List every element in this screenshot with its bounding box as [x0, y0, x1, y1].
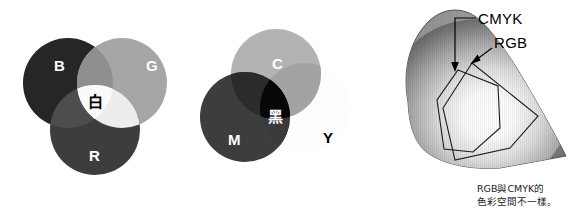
additive-color-panel: B G R 白	[0, 0, 195, 223]
magenta-circle-label: M	[228, 132, 241, 147]
cyan-yellow-overlap	[260, 63, 350, 153]
gamut-caption-line-2: 色彩空間不一樣。	[477, 196, 557, 208]
cmyk-callout-label: CMYK	[478, 10, 523, 27]
red-circle-label: R	[89, 148, 100, 163]
cmyk-leader-line	[451, 18, 476, 72]
yellow-circle	[260, 63, 350, 153]
rgb-leader-line	[470, 48, 492, 65]
white-center-label: 白	[88, 95, 103, 110]
blue-circle-label: B	[54, 58, 65, 73]
rgb-callout-label: RGB	[494, 34, 527, 51]
yellow-circle-label: Y	[323, 130, 333, 145]
figure-canvas: B G R 白	[0, 0, 582, 223]
cmy-triple-overlap	[260, 63, 350, 153]
cyan-circle	[231, 29, 321, 119]
magenta-yellow-overlap	[260, 63, 350, 153]
magenta-circle	[200, 72, 290, 162]
cmyk-gamut-polygon	[437, 70, 500, 152]
gamut-caption-line-1: RGB與CMYK的	[477, 183, 544, 195]
black-center-label: 黑	[268, 110, 283, 125]
cyan-circle-label: C	[272, 56, 283, 71]
green-circle-label: G	[146, 58, 158, 73]
rgb-gamut-polygon	[443, 63, 538, 160]
chromaticity-horseshoe	[386, 0, 580, 223]
cyan-magenta-overlap	[200, 72, 290, 162]
additive-venn-svg	[0, 0, 195, 223]
